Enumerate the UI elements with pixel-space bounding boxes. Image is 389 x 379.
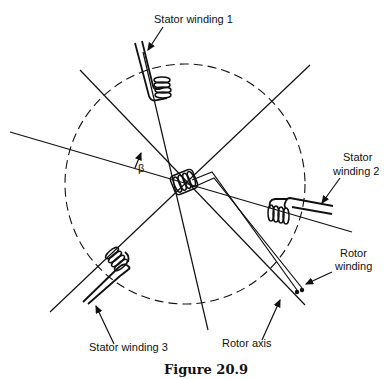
label-leaders: [96, 27, 340, 344]
stator-axis-3: [50, 65, 310, 312]
label-stator-winding-2-line1: Stator: [343, 151, 373, 163]
label-stator-winding-1: Stator winding 1: [154, 13, 233, 25]
stator-winding-1-coil: [135, 41, 171, 101]
label-rotor-winding-line1: Rotor: [340, 247, 367, 259]
angle-beta-label: β: [138, 162, 144, 174]
label-stator-winding-3: Stator winding 3: [89, 341, 168, 353]
rotor-stator-diagram: β Stator winding 1 Stator winding 2 Roto…: [0, 0, 389, 379]
label-rotor-winding-line2: winding: [334, 260, 372, 272]
angle-beta-marker: β: [135, 153, 144, 174]
reference-axis: [80, 70, 305, 305]
label-rotor-axis: Rotor axis: [222, 337, 272, 349]
label-stator-winding-2-line2: winding 2: [332, 165, 379, 177]
figure-caption: Figure 20.9: [164, 362, 248, 377]
rotor-coil-icon: [169, 168, 199, 196]
